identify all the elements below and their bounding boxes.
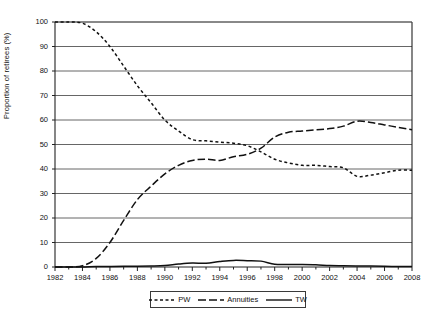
legend-label-tw: TW — [295, 296, 307, 304]
y-tick-label: 20 — [26, 213, 48, 222]
legend-swatch-tw — [266, 296, 292, 304]
x-tick-label: 2008 — [395, 273, 429, 282]
series-line-pw — [55, 22, 412, 177]
y-tick-label: 100 — [26, 17, 48, 26]
chart-legend: PW Annuities TW — [150, 291, 306, 308]
y-tick-label: 70 — [26, 91, 48, 100]
legend-item-pw[interactable]: PW — [149, 296, 190, 304]
y-tick-label: 80 — [26, 66, 48, 75]
y-tick-label: 60 — [26, 115, 48, 124]
series-line-tw — [55, 260, 412, 267]
legend-label-pw: PW — [178, 296, 190, 304]
y-tick-label: 40 — [26, 164, 48, 173]
legend-item-annuities[interactable]: Annuities — [198, 296, 258, 304]
legend-swatch-pw — [149, 296, 175, 304]
y-tick-label: 50 — [26, 140, 48, 149]
legend-item-tw[interactable]: TW — [266, 296, 307, 304]
legend-swatch-annuities — [198, 296, 224, 304]
line-chart: Proportion of retirees (%) 0102030405060… — [0, 0, 438, 326]
legend-label-annuities: Annuities — [227, 296, 258, 304]
y-tick-label: 10 — [26, 238, 48, 247]
y-tick-label: 30 — [26, 189, 48, 198]
y-tick-label: 0 — [26, 262, 48, 271]
y-tick-label: 90 — [26, 42, 48, 51]
y-axis-title: Proportion of retirees (%) — [2, 0, 11, 119]
